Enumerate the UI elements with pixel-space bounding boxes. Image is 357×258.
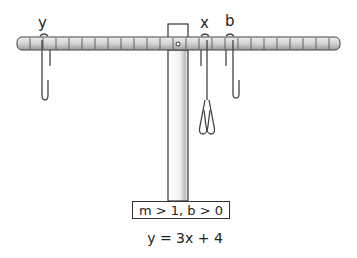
balance-diagram [0,0,357,258]
label-x: x [200,16,209,31]
post-cap [168,24,188,38]
equation: y = 3x + 4 [140,230,230,246]
label-b: b [225,14,235,29]
label-y: y [38,16,47,31]
pivot-pin [176,42,180,46]
condition-box: m > 1, b > 0 [132,201,230,219]
post [168,50,188,201]
